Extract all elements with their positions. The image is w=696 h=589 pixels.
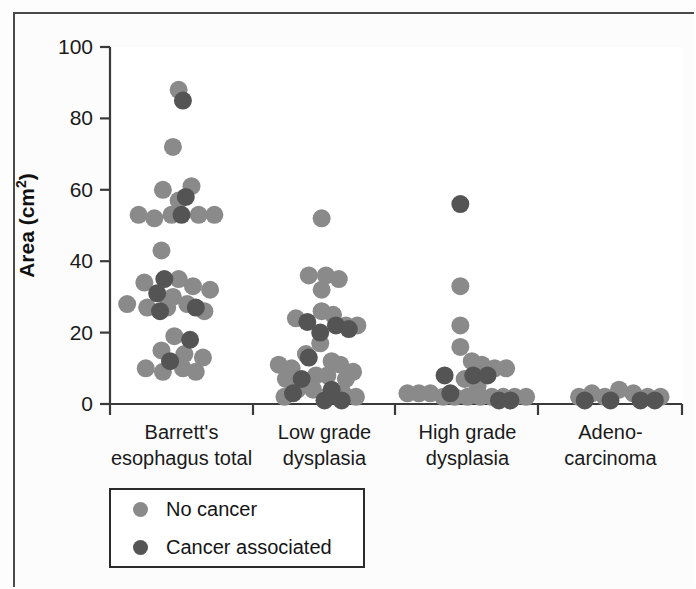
- data-point: [187, 363, 205, 381]
- data-point: [451, 316, 469, 334]
- data-point: [137, 359, 155, 377]
- data-point: [451, 195, 469, 213]
- svg-text:Low grade: Low grade: [278, 421, 371, 443]
- data-point: [148, 284, 166, 302]
- data-point: [173, 206, 191, 224]
- data-point: [300, 349, 318, 367]
- data-point: [333, 391, 351, 409]
- data-point: [284, 384, 302, 402]
- svg-text:High grade: High grade: [419, 421, 517, 443]
- y-axis-title: Area (cm2): [13, 173, 38, 278]
- y-tick-label: 60: [70, 178, 93, 201]
- data-point: [311, 324, 329, 342]
- y-tick-label: 40: [70, 249, 93, 272]
- x-category-label: Barrett'sesophagus total: [111, 421, 252, 469]
- data-point: [313, 281, 331, 299]
- data-point: [330, 270, 348, 288]
- data-point: [164, 138, 182, 156]
- data-point: [316, 391, 334, 409]
- data-point: [451, 277, 469, 295]
- legend-item-no-cancer: No cancer: [111, 490, 363, 528]
- y-tick-label: 0: [81, 392, 93, 415]
- data-point: [152, 241, 170, 259]
- svg-text:dysplasia: dysplasia: [426, 447, 510, 469]
- data-point: [118, 295, 136, 313]
- data-point: [177, 188, 195, 206]
- x-category-label: High gradedysplasia: [419, 421, 517, 469]
- legend-item-cancer-associated: Cancer associated: [111, 528, 363, 566]
- data-point: [646, 391, 664, 409]
- data-point: [340, 320, 358, 338]
- svg-text:esophagus total: esophagus total: [111, 447, 252, 469]
- data-point: [165, 327, 183, 345]
- y-tick-label: 80: [70, 106, 93, 129]
- x-category-label: Adeno-carcinoma: [564, 421, 657, 469]
- data-point: [501, 391, 519, 409]
- svg-text:dysplasia: dysplasia: [283, 447, 367, 469]
- data-point: [576, 391, 594, 409]
- y-tick-label: 20: [70, 321, 93, 344]
- data-point: [436, 366, 454, 384]
- data-point: [497, 359, 515, 377]
- legend-swatch-no-cancer: [133, 502, 148, 517]
- data-point: [145, 209, 163, 227]
- figure-container: 020406080100Area (cm2)Barrett'sesophagus…: [0, 0, 696, 589]
- data-point: [201, 281, 219, 299]
- data-point: [451, 338, 469, 356]
- data-point: [161, 352, 179, 370]
- data-point: [313, 209, 331, 227]
- x-category-label: Low gradedysplasia: [278, 421, 371, 469]
- y-tick-label: 100: [58, 35, 93, 58]
- data-point: [205, 206, 223, 224]
- chart-legend: No cancer Cancer associated: [109, 488, 365, 568]
- data-point: [130, 206, 148, 224]
- data-point: [300, 266, 318, 284]
- svg-text:Adeno-: Adeno-: [578, 421, 643, 443]
- data-point: [181, 331, 199, 349]
- data-point: [479, 366, 497, 384]
- data-point: [187, 299, 205, 317]
- data-point: [602, 391, 620, 409]
- data-point: [154, 181, 172, 199]
- legend-swatch-cancer-associated: [133, 540, 148, 555]
- data-point: [517, 388, 535, 406]
- svg-text:carcinoma: carcinoma: [564, 447, 657, 469]
- legend-label-cancer-associated: Cancer associated: [166, 536, 332, 559]
- data-point: [184, 277, 202, 295]
- data-point: [151, 302, 169, 320]
- data-point: [190, 206, 208, 224]
- svg-text:Area (cm2): Area (cm2): [13, 173, 38, 278]
- svg-text:Barrett's: Barrett's: [145, 421, 219, 443]
- data-point: [441, 384, 459, 402]
- legend-label-no-cancer: No cancer: [166, 498, 257, 521]
- data-point: [174, 92, 192, 110]
